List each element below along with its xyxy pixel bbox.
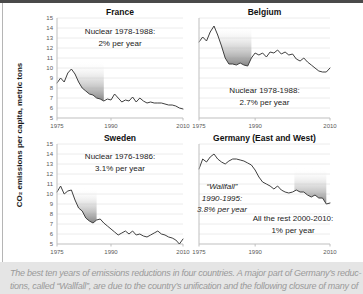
y-tick-label: 15 <box>46 141 53 147</box>
panel-title-france: France <box>57 7 183 17</box>
annotation-germany-all-the-rest: All the rest 2000-2010: 1% per year <box>226 213 360 236</box>
y-tick-label: 14 <box>46 25 53 31</box>
y-tick-label: 10 <box>46 65 53 71</box>
annotation-belgium-nuclear: Nuclear 1978-1988: 2.7% per year <box>199 85 330 108</box>
annotation-line: 3.1% per year <box>57 163 183 175</box>
y-tick-label: 9 <box>50 75 54 81</box>
y-tick-label: 13 <box>46 35 53 41</box>
x-tick-label: 1990 <box>248 249 262 255</box>
x-tick-label: 1975 <box>50 123 64 129</box>
x-tick-label: 1975 <box>192 249 206 255</box>
panel-title-germany: Germany (East and West) <box>199 133 330 143</box>
y-tick-label: 7 <box>50 95 54 101</box>
annotation-france-nuclear: Nuclear 1978-1988: 2% per year <box>57 26 183 49</box>
x-tick-label: 1990 <box>104 123 118 129</box>
annotation-line: “Wallfall” <box>186 181 258 193</box>
panel-title-belgium: Belgium <box>199 7 330 17</box>
y-tick-label: 8 <box>50 85 54 91</box>
x-tick-label: 1975 <box>192 123 206 129</box>
annotation-line: Nuclear 1976-1986: <box>57 151 183 163</box>
y-tick-label: 11 <box>47 55 54 61</box>
figure: CO₂ emissions per capita, metric tons 56… <box>0 0 363 294</box>
highlight-band <box>294 168 326 204</box>
x-tick-label: 1990 <box>248 123 262 129</box>
y-tick-label: 14 <box>46 151 53 157</box>
x-tick-label: 1990 <box>104 249 118 255</box>
y-tick-label: 5 <box>50 115 54 121</box>
annotation-germany-wallfall: “Wallfall” 1990-1995: 3.8% per year <box>186 181 258 216</box>
panel-plot-belgium: 197519902010 <box>192 18 337 129</box>
highlight-band <box>217 26 251 66</box>
y-tick-label: 12 <box>46 171 53 177</box>
y-tick-label: 13 <box>46 161 53 167</box>
y-tick-label: 8 <box>50 211 54 217</box>
annotation-line: 1990-1995: <box>186 193 258 205</box>
y-tick-label: 9 <box>50 201 54 207</box>
x-tick-label: 2010 <box>323 123 337 129</box>
x-tick-label: 2010 <box>176 249 190 255</box>
annotation-line: Nuclear 1978-1988: <box>57 26 183 38</box>
caption-line: The best ten years of emissions reductio… <box>10 267 363 280</box>
y-tick-label: 5 <box>50 241 54 247</box>
x-tick-label: 1975 <box>50 249 64 255</box>
x-tick-label: 2010 <box>176 123 190 129</box>
annotation-line: 2.7% per year <box>199 97 330 109</box>
annotation-line: Nuclear 1978-1988: <box>199 85 330 97</box>
y-tick-label: 12 <box>46 45 53 51</box>
annotation-line: 2% per year <box>57 38 183 50</box>
y-tick-label: 15 <box>46 15 53 21</box>
y-tick-label: 6 <box>50 105 54 111</box>
y-tick-label: 7 <box>50 221 54 227</box>
y-tick-label: 6 <box>50 231 54 237</box>
caption-line: tions, called “Wallfall”, are due to the… <box>10 280 363 293</box>
y-tick-label: 11 <box>47 181 54 187</box>
y-tick-label: 10 <box>46 191 53 197</box>
annotation-sweden-nuclear: Nuclear 1976-1986: 3.1% per year <box>57 151 183 174</box>
figure-caption: The best ten years of emissions reductio… <box>0 262 363 294</box>
x-tick-label: 2010 <box>323 249 337 255</box>
emissions-line <box>57 69 183 109</box>
highlight-band <box>62 188 96 223</box>
annotation-line: All the rest 2000-2010: <box>226 213 360 225</box>
annotation-line: 1% per year <box>226 225 360 237</box>
panel-title-sweden: Sweden <box>57 133 183 143</box>
